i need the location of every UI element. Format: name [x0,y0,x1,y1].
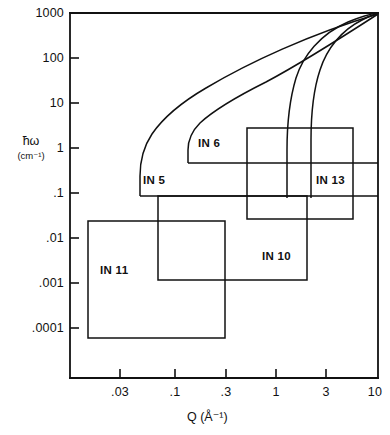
region-curve-in5 [140,14,378,196]
region-curve-in13 [311,13,378,198]
y-tick-label-0.01: .01 [8,231,64,245]
x-tick-label-3: 3 [309,385,343,399]
y-tick-label-0.001: .001 [8,276,64,290]
y-tick-label-100: 100 [8,51,64,65]
y-tick-label-1000: 1000 [8,6,64,20]
x-axis-ticks [120,369,326,378]
region-label-in13: IN 13 [316,174,345,186]
qw-range-chart: 1000 100 10 1 .1 .01 .001 .0001 ħω (cm⁻¹… [0,0,390,435]
region-box-in10 [158,196,307,280]
y-tick-label-10: 10 [8,96,64,110]
x-tick-label-0.3: .3 [208,385,244,399]
x-tick-label-10: 10 [360,385,390,399]
y-axis-title: ħω (cm⁻¹) [8,134,54,163]
y-axis-title-symbol: ħω [23,134,40,148]
x-axis-title: Q (Å⁻¹) [187,409,228,424]
region-label-in5: IN 5 [143,174,165,186]
y-tick-label-0.0001: .0001 [4,321,64,335]
x-tick-label-1: 1 [259,385,293,399]
region-label-in10: IN 10 [262,250,291,262]
chart-plot-area [0,0,390,435]
region-label-in6: IN 6 [198,137,220,149]
x-tick-label-0.1: .1 [157,385,193,399]
region-label-in11: IN 11 [100,264,128,276]
y-axis-title-unit: (cm⁻¹) [17,150,44,161]
x-tick-label-0.03: .03 [100,385,140,399]
y-tick-label-0.1: .1 [8,186,64,200]
y-axis-ticks [70,58,79,328]
